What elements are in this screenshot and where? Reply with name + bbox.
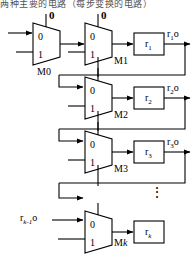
signal-r1o-label: r1o: [167, 29, 179, 43]
mux-mk-label-prefix: M: [114, 237, 123, 248]
register-rk-sub: k: [148, 232, 151, 240]
mux-m0-label: M0: [37, 67, 51, 77]
feedback-r1-to-m2: [59, 75, 83, 87]
register-r3-label: r3: [145, 147, 152, 161]
register-r2-sub: 2: [148, 98, 152, 106]
signal-r2o-suffix: o: [174, 82, 179, 93]
mux-m3-input-bottom-label: 1: [90, 158, 95, 168]
mux-m2-label: M2: [114, 110, 128, 120]
mux-m2-input-top-label: 0: [90, 86, 95, 96]
mux-m3-label: M3: [114, 164, 128, 174]
mux-m2-input-bottom-label: 1: [90, 104, 95, 114]
mux-m1-select-label: 0: [101, 10, 107, 20]
mux-m1-label: M1: [114, 56, 128, 66]
mux-mk-input-bottom-label: 1: [90, 238, 95, 248]
feedback-r3-to-next: [59, 183, 83, 198]
mux-mk-label-italic: k: [123, 237, 127, 248]
feedback-r2-to-m3: [59, 129, 83, 141]
signal-rk1o-sub: k-1: [23, 218, 32, 226]
register-r1-sub: 1: [148, 44, 152, 52]
mux-m0-input-top-label: 0: [38, 32, 43, 42]
signal-r2o-label: r2o: [167, 83, 179, 97]
signal-r1o-suffix: o: [174, 28, 179, 39]
mux-m3-input-top-label: 0: [90, 140, 95, 150]
mux-m1-input-bottom-label: 1: [90, 50, 95, 60]
register-rk-label: rk: [145, 227, 151, 241]
signal-r3o-label: r3o: [167, 137, 179, 151]
register-r1-label: r1: [145, 39, 152, 53]
register-r2-label: r2: [145, 93, 152, 107]
mux-mk-input-top-label: 0: [90, 220, 95, 230]
mux-m1-input-top-label: 0: [90, 32, 95, 42]
vertical-ellipsis: ⋮: [150, 186, 164, 200]
mux-m0-input-bottom-label: 1: [38, 50, 43, 60]
mux-mk-label: Mk: [114, 238, 127, 248]
signal-r3o-suffix: o: [174, 136, 179, 147]
mux-m0-select-label: 0: [49, 10, 55, 20]
signal-rk1o-suffix: o: [32, 212, 37, 223]
register-r3-sub: 3: [148, 152, 152, 160]
signal-rk1o-label: rk-1o: [20, 213, 37, 227]
